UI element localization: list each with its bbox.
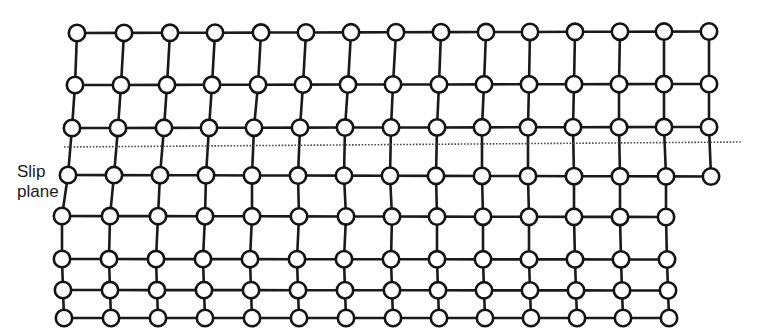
- atom: [295, 76, 311, 92]
- slip-plane-label-line1: Slip: [17, 162, 59, 182]
- atom: [522, 24, 538, 40]
- atom: [522, 282, 538, 298]
- atom: [197, 310, 213, 326]
- atom: [521, 251, 537, 267]
- atom: [566, 76, 582, 92]
- atom: [244, 208, 260, 224]
- atom: [615, 310, 631, 326]
- atom: [201, 120, 217, 136]
- atom: [385, 310, 401, 326]
- atom: [54, 251, 70, 267]
- atom: [611, 119, 627, 135]
- atom: [521, 76, 537, 92]
- atom: [101, 251, 117, 267]
- atom: [150, 208, 166, 224]
- atom: [291, 208, 307, 224]
- atom: [382, 168, 398, 184]
- atom: [250, 77, 266, 93]
- atom: [384, 208, 400, 224]
- atom: [195, 251, 211, 267]
- atom: [429, 119, 445, 135]
- atom: [116, 25, 132, 41]
- atom: [244, 167, 260, 183]
- atom: [521, 209, 537, 225]
- atom: [428, 168, 444, 184]
- atom: [431, 76, 447, 92]
- atom: [383, 251, 399, 267]
- atom: [474, 168, 490, 184]
- atom: [569, 310, 585, 326]
- atom: [113, 77, 129, 93]
- atom: [290, 167, 306, 183]
- atom: [475, 208, 491, 224]
- atom: [656, 23, 672, 39]
- atom: [388, 24, 404, 40]
- atom: [289, 251, 305, 267]
- atom: [54, 208, 70, 224]
- atom: [103, 310, 119, 326]
- atom: [568, 282, 584, 298]
- atom: [431, 310, 447, 326]
- atom: [656, 76, 672, 92]
- atom: [611, 76, 627, 92]
- atom: [337, 119, 353, 135]
- atom: [102, 282, 118, 298]
- atom: [290, 282, 306, 298]
- atom: [659, 251, 675, 267]
- atom: [242, 251, 258, 267]
- atom: [243, 282, 259, 298]
- atom: [149, 282, 165, 298]
- atom: [338, 310, 354, 326]
- atom: [148, 251, 164, 267]
- atom: [106, 167, 122, 183]
- atom: [520, 168, 536, 184]
- atom: [110, 120, 126, 136]
- atom: [612, 24, 628, 40]
- slip-plane-label-line2: plane: [17, 182, 59, 202]
- atom: [338, 208, 354, 224]
- atom: [337, 282, 353, 298]
- atom: [385, 76, 401, 92]
- atom: [343, 24, 359, 40]
- atom: [656, 119, 672, 135]
- atom: [429, 251, 445, 267]
- atom: [565, 119, 581, 135]
- atom: [336, 167, 352, 183]
- atom: [429, 208, 445, 224]
- atom: [658, 209, 674, 225]
- atom: [660, 282, 676, 298]
- atom: [196, 282, 212, 298]
- atom: [614, 282, 630, 298]
- atom: [246, 120, 262, 136]
- atom: [701, 119, 717, 135]
- atom: [474, 119, 490, 135]
- atom: [150, 310, 166, 326]
- atom: [476, 76, 492, 92]
- atom: [477, 310, 493, 326]
- atom: [55, 282, 71, 298]
- atom: [661, 310, 677, 326]
- atom: [658, 168, 674, 184]
- atom: [102, 208, 118, 224]
- atom: [159, 77, 175, 93]
- atom: [336, 251, 352, 267]
- atom: [204, 77, 220, 93]
- atom: [433, 24, 449, 40]
- atom: [253, 24, 269, 40]
- slip-plane-label: Slip plane: [17, 162, 59, 202]
- atom: [197, 208, 213, 224]
- atom: [384, 282, 400, 298]
- atom: [244, 310, 260, 326]
- atom: [566, 168, 582, 184]
- atom: [156, 120, 172, 136]
- atom: [60, 167, 76, 183]
- atom: [523, 310, 539, 326]
- atom: [520, 119, 536, 135]
- atom: [198, 167, 214, 183]
- edge-dislocation-figure: Slip plane: [0, 0, 765, 336]
- atom: [152, 167, 168, 183]
- atom: [292, 119, 308, 135]
- atom: [56, 310, 72, 326]
- atom: [430, 282, 446, 298]
- slip-plane-layer: [64, 142, 742, 147]
